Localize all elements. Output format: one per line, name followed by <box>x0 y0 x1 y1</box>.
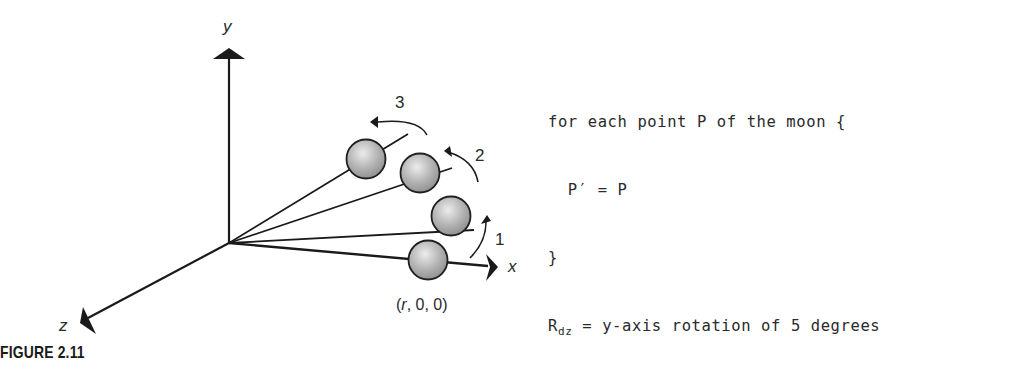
z-axis-arrowhead-icon <box>80 307 96 334</box>
x-axis-arrowhead-icon <box>486 254 498 281</box>
moon-sphere-step-1 <box>432 197 471 236</box>
code-line-1: for each point P of the moon { <box>548 111 880 134</box>
y-axis: y <box>213 17 245 243</box>
moon-sphere-step-2 <box>401 154 440 193</box>
z-axis: z <box>58 243 229 335</box>
figure-caption: FIGURE 2.11 <box>0 343 85 363</box>
y-axis-arrowhead-icon <box>213 48 245 59</box>
moon-sphere-start <box>409 241 448 280</box>
rotation-arc-2 <box>448 152 478 182</box>
moon-sphere-step-3 <box>347 140 386 179</box>
rotation-arc-1 <box>470 222 486 258</box>
step-label-3: 3 <box>395 93 404 112</box>
code-line-4: Rdz = y-axis rotation of 5 degrees <box>548 315 880 338</box>
start-point-label: (r, 0, 0) <box>396 296 448 313</box>
step-label-2: 2 <box>475 146 484 165</box>
code-line-2: P′ = P <box>548 179 880 202</box>
x-axis-label: x <box>507 257 517 276</box>
y-axis-label: y <box>222 17 233 36</box>
rotation-arrowhead-3-icon <box>370 116 378 128</box>
pseudocode-block: for each point P of the moon { P′ = P } … <box>548 66 880 374</box>
step-label-1: 1 <box>495 230 504 249</box>
rotation-arc-3 <box>378 121 427 135</box>
code-line-3: } <box>548 247 880 270</box>
rotation-arrowhead-2-icon <box>444 146 452 157</box>
z-axis-label: z <box>58 316 68 335</box>
x-axis: x <box>229 243 517 281</box>
moon-positions <box>347 140 471 280</box>
